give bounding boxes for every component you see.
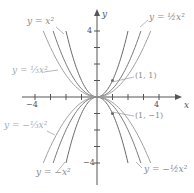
- leader-lines: [44, 20, 148, 172]
- y-axis-label: y: [102, 10, 107, 19]
- label-y-neg-third-x2: y = −⅓x²: [4, 121, 47, 130]
- label-y-third-x2: y = ⅓x²: [12, 66, 48, 75]
- tick-label-y-pos4: 4: [87, 27, 92, 35]
- annotation-point-1-1: (1, 1): [135, 72, 157, 80]
- y-axis-arrow-icon: [94, 9, 100, 16]
- label-y-half-x2: y = ½x²: [149, 13, 185, 22]
- leader-y-x2: [56, 27, 64, 34]
- tick-label-y-neg4: −4: [83, 159, 95, 167]
- axes: [22, 9, 182, 185]
- tick-label-x-pos4: 4: [154, 101, 159, 109]
- label-y-neg-half-x2: y = −½x²: [144, 165, 187, 174]
- annotation-point-1-neg1: (1, −1): [135, 112, 163, 120]
- label-y-x2: y = x²: [27, 17, 54, 26]
- tick-label-x-neg4: −4: [26, 101, 38, 109]
- leader-y-half-x2: [140, 20, 148, 27]
- leader-y-neg-third-x2: [47, 131, 55, 135]
- label-y-neg-x2: y = −x²: [36, 168, 71, 177]
- x-axis-label: x: [184, 101, 189, 110]
- x-axis-arrow-icon: [175, 94, 182, 100]
